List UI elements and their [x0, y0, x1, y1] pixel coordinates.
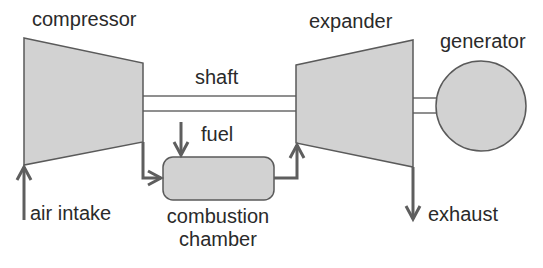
generator [436, 61, 526, 151]
shaft [143, 96, 297, 111]
exhaust-arrow [406, 167, 420, 219]
compressor [24, 38, 143, 165]
exhaust-label: exhaust [428, 203, 498, 225]
expander-label: expander [309, 10, 393, 32]
generator-label: generator [440, 30, 526, 52]
compressor-to-chamber-arrow [143, 142, 161, 185]
air-intake-arrow [17, 167, 31, 220]
shaft-label: shaft [195, 66, 239, 88]
gas-turbine-diagram: compressor shaft expander generator fuel… [0, 0, 543, 268]
air-intake-label: air intake [30, 202, 111, 224]
combustion-chamber-label-line1: combustion [167, 205, 269, 227]
fuel-label: fuel [201, 123, 233, 145]
generator-shaft [413, 98, 437, 113]
combustion-chamber-label-line2: chamber [179, 228, 257, 250]
compressor-label: compressor [32, 8, 137, 30]
expander [296, 40, 413, 167]
combustion-chamber [163, 157, 274, 200]
chamber-to-expander-arrow [274, 145, 304, 178]
fuel-arrow [174, 122, 188, 155]
